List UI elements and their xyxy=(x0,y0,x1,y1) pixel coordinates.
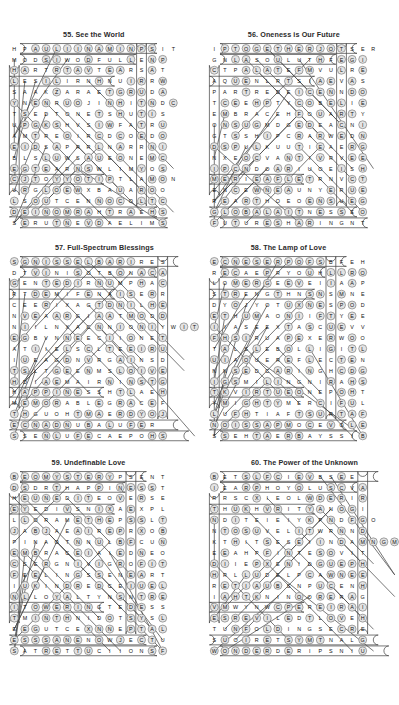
letter-cell-text: E xyxy=(287,357,291,363)
letter-cell-text: A xyxy=(255,209,259,215)
letter-cell-text: U xyxy=(276,144,280,150)
letter-cell-text: G xyxy=(361,198,365,204)
letter-cell-text: H xyxy=(255,100,259,106)
letter-cell-text: O xyxy=(76,100,80,106)
letter-cell-text: L xyxy=(255,474,258,480)
puzzle-grid-57[interactable]: SGNISSELBARIRESDTVINISOTBONACAGENTEDIRNU… xyxy=(8,255,201,442)
letter-cell-text: I xyxy=(267,133,269,139)
letter-cell-text: I xyxy=(109,648,111,654)
letter-cell-text: R xyxy=(212,270,216,276)
puzzle-grid-58[interactable]: ECNESERPOFSBFEHRECAEPRYOUHLLROLOMERGEEVE… xyxy=(208,255,369,442)
letter-cell-text: R xyxy=(150,346,154,352)
letter-cell-text: B xyxy=(108,270,112,276)
letter-cell-text: N xyxy=(308,302,312,308)
puzzle-title-57: 57. Full-Spectrum Blessings xyxy=(55,243,154,252)
letter-cell-text: D xyxy=(150,133,154,139)
letter-cell-text: C xyxy=(244,495,248,501)
letter-cell-text: N xyxy=(76,615,80,621)
letter-cell-text: G xyxy=(329,346,333,352)
letter-cell-text: H xyxy=(65,615,69,621)
letter-cell-text: L xyxy=(245,572,248,578)
letter-cell-text: S xyxy=(161,166,165,172)
letter-cell-text: S xyxy=(44,637,48,643)
letter-cell-text: A xyxy=(340,280,344,286)
letter-cell-text: N xyxy=(55,335,59,341)
letter-cell-text: O xyxy=(44,594,48,600)
letter-cell-text: P xyxy=(108,176,112,182)
word-search-grid[interactable]: BEOMYSTERYPSENTDSDRTHAPPINESSTHEUNEDITEO… xyxy=(8,470,169,657)
letter-cell-text: N xyxy=(87,637,91,643)
letter-cell-text: E xyxy=(266,220,270,226)
letter-cell-text: M xyxy=(254,313,259,319)
letter-cell-text: C xyxy=(255,155,259,161)
letter-cell-text: G xyxy=(350,57,354,63)
letter-cell-text: S xyxy=(23,198,27,204)
letter-cell-text: O xyxy=(97,637,101,643)
letter-cell-text: G xyxy=(76,572,80,578)
letter-cell-text: O xyxy=(23,57,27,63)
letter-cell-text: R xyxy=(65,313,69,319)
letter-cell-text: E xyxy=(119,604,123,610)
puzzle-grid-60[interactable]: BETSLFCIEVBSEEIEARPHOYOLUSCVARRSCXIEOLWD… xyxy=(208,470,399,657)
letter-cell-text: D xyxy=(55,422,59,428)
letter-cell-text: S xyxy=(150,495,154,501)
letter-cell-text: L xyxy=(23,155,26,161)
letter-cell-text: E xyxy=(297,335,301,341)
word-search-grid[interactable]: ECNESERPOFSBFEHRECAEPRYOUHLLROLOMERGEEVE… xyxy=(208,255,369,442)
letter-cell-text: N xyxy=(340,648,344,654)
letter-cell-text: C xyxy=(329,357,333,363)
letter-cell-text: G xyxy=(108,357,112,363)
letter-cell-text: N xyxy=(108,144,112,150)
letter-cell-text: S xyxy=(234,133,238,139)
word-search-grid[interactable]: BETSLFCIEVBSEEIEARPHOYOLUSCVARRSCXIEOLWD… xyxy=(208,470,399,657)
puzzle-grid-59[interactable]: BEOMYSTERYPSENTDSDRTHAPPINESSTHEUNEDITEO… xyxy=(8,470,169,657)
letter-cell-text: R xyxy=(23,187,27,193)
letter-cell-text: O xyxy=(265,302,269,308)
letter-cell-text: N xyxy=(308,368,312,374)
letter-cell-text: E xyxy=(140,604,144,610)
word-search-grid[interactable]: SGNISSELBARIRESDTVINISOTBONACAGENTEDIRNU… xyxy=(8,255,201,442)
letter-cell-text: R xyxy=(65,604,69,610)
letter-cell-text: Q xyxy=(223,78,227,84)
letter-cell-text: R xyxy=(287,433,291,439)
letter-cell-text: S xyxy=(297,78,301,84)
letter-cell-text: N xyxy=(350,220,354,226)
letter-cell-text: E xyxy=(150,389,154,395)
letter-cell-text: O xyxy=(161,550,165,556)
letter-cell-text: R xyxy=(97,357,101,363)
letter-cell-text: A xyxy=(119,506,123,512)
letter-cell-text: I xyxy=(183,324,185,330)
letter-cell-text: I xyxy=(214,324,216,330)
letter-cell-text: H xyxy=(265,485,269,491)
letter-cell-text: R xyxy=(55,67,59,73)
letter-cell-text: I xyxy=(14,604,16,610)
letter-cell-text: E xyxy=(161,495,165,501)
letter-cell-text: A xyxy=(140,572,144,578)
letter-cell-text: P xyxy=(255,561,259,567)
letter-cell-text: A xyxy=(76,67,80,73)
letter-cell-text: I xyxy=(330,400,332,406)
letter-cell-text: H xyxy=(329,368,333,374)
letter-cell-text: E xyxy=(276,528,280,534)
letter-cell-text: R xyxy=(244,111,248,117)
letter-cell-text: S xyxy=(244,474,248,480)
letter-cell-text: A xyxy=(34,46,38,52)
letter-cell-text: I xyxy=(277,550,279,556)
puzzle-grid-55[interactable]: HPAULIINAMINPSITMODSIWODFULLENPHARTRTAVT… xyxy=(8,42,180,229)
word-search-grid[interactable]: IPTOGETHERJOTSERGNLASOULUTHFEGICTPALATEF… xyxy=(208,42,380,229)
word-search-grid[interactable]: HPAULIINAMINPSITMODSIWODFULLENPHARTRTAVT… xyxy=(8,42,180,229)
letter-cell-text: X xyxy=(87,187,91,193)
letter-cell-text: D xyxy=(340,539,344,545)
letter-cell-text: D xyxy=(108,133,112,139)
puzzle-grid-56[interactable]: IPTOGETHERJOTSERGNLASOULUTHFEGICTPALATEF… xyxy=(208,42,380,229)
letter-cell-text: N xyxy=(108,594,112,600)
letter-cell-text: H xyxy=(234,539,238,545)
letter-cell-text: K xyxy=(223,389,227,395)
letter-cell-text: C xyxy=(23,422,27,428)
letter-cell-text: U xyxy=(350,400,354,406)
letter-cell-text: A xyxy=(223,594,227,600)
letter-cell-text: U xyxy=(97,155,101,161)
letter-cell-text: N xyxy=(287,313,291,319)
letter-cell-text: L xyxy=(151,517,154,523)
letter-cell-text: R xyxy=(55,100,59,106)
